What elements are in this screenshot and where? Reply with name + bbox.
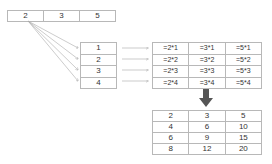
- formula-cell: =2*3: [153, 66, 189, 78]
- down-arrow-icon: [199, 89, 213, 107]
- result-table: 2 3 5 4 6 10 6 9 15 8 12 20: [152, 110, 262, 155]
- formula-cell: =3*4: [189, 77, 225, 89]
- index-cell: 3: [81, 66, 117, 78]
- result-cell: 10: [225, 122, 261, 133]
- result-cell: 3: [189, 111, 225, 122]
- formula-cell: =5*4: [225, 77, 261, 89]
- result-cell: 5: [225, 111, 261, 122]
- index-cell: 4: [81, 77, 117, 89]
- formula-table: =2*1 =3*1 =5*1 =2*2 =3*2 =5*2 =2*3 =3*3 …: [152, 42, 262, 89]
- fan-arrow-2-icon: [28, 21, 78, 59]
- result-cell: 15: [225, 133, 261, 144]
- index-column: 1 2 3 4: [80, 42, 117, 89]
- fan-arrow-1-icon: [28, 21, 78, 48]
- formula-cell: =3*2: [189, 54, 225, 66]
- index-cell: 2: [81, 54, 117, 66]
- result-cell: 6: [153, 133, 189, 144]
- formula-cell: =3*1: [189, 43, 225, 55]
- formula-cell: =2*2: [153, 54, 189, 66]
- result-cell: 6: [189, 122, 225, 133]
- fan-arrow-3-icon: [28, 21, 78, 70]
- formula-cell: =3*3: [189, 66, 225, 78]
- formula-cell: =5*1: [225, 43, 261, 55]
- result-cell: 2: [153, 111, 189, 122]
- result-cell: 20: [225, 144, 261, 155]
- formula-cell: =5*3: [225, 66, 261, 78]
- result-cell: 8: [153, 144, 189, 155]
- result-cell: 12: [189, 144, 225, 155]
- formula-cell: =2*4: [153, 77, 189, 89]
- result-cell: 9: [189, 133, 225, 144]
- result-cell: 4: [153, 122, 189, 133]
- formula-cell: =2*1: [153, 43, 189, 55]
- formula-cell: =5*2: [225, 54, 261, 66]
- fan-arrow-4-icon: [28, 21, 78, 81]
- index-cell: 1: [81, 43, 117, 55]
